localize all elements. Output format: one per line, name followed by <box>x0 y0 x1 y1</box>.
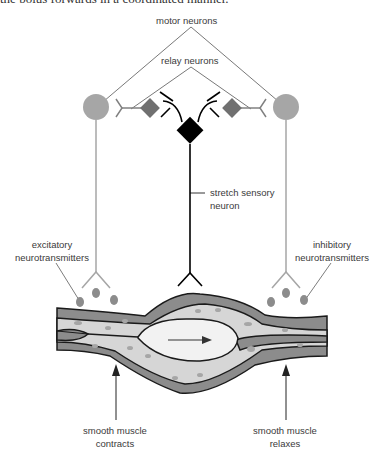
label-line: smooth muscle <box>83 424 147 437</box>
peristalsis-diagram <box>0 0 383 456</box>
label-excitatory-neurotransmitters: excitatory neurotransmitters <box>15 238 89 264</box>
label-line: neuron <box>210 199 274 212</box>
label-text: motor neurons <box>156 15 217 26</box>
label-text: relay neurons <box>161 55 219 66</box>
label-relay-neurons: relay neurons <box>161 54 219 67</box>
label-smooth-muscle-contracts: smooth muscle contracts <box>83 424 147 450</box>
inhibitory-leader <box>305 263 331 300</box>
excitatory-leader <box>56 263 79 300</box>
inhibitory-vesicles <box>267 288 308 307</box>
label-line: relaxes <box>253 437 317 450</box>
label-inhibitory-neurotransmitters: inhibitory neurotransmitters <box>295 238 369 264</box>
relaxes-arrow <box>282 364 290 420</box>
relay-neuron-left <box>116 98 160 118</box>
label-line: stretch sensory <box>210 186 274 199</box>
label-line: contracts <box>83 437 147 450</box>
relay-neuron-right <box>222 98 266 118</box>
label-line: neurotransmitters <box>295 251 369 264</box>
label-line: smooth muscle <box>253 424 317 437</box>
label-stretch-sensory-neuron: stretch sensory neuron <box>210 186 274 212</box>
excitatory-vesicles <box>76 288 118 307</box>
label-line: neurotransmitters <box>15 251 89 264</box>
label-motor-neurons: motor neurons <box>156 14 217 27</box>
label-smooth-muscle-relaxes: smooth muscle relaxes <box>253 424 317 450</box>
contracts-arrow <box>112 364 120 420</box>
label-line: excitatory <box>15 238 89 251</box>
label-line: inhibitory <box>295 238 369 251</box>
